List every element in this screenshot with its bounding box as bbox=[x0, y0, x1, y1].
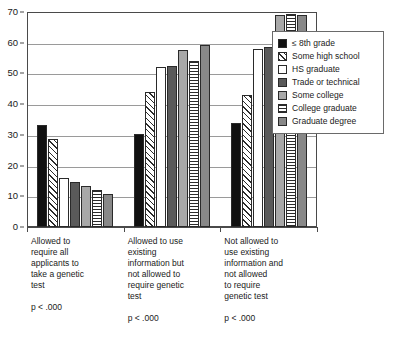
x-category-line: test bbox=[31, 280, 115, 291]
bar bbox=[81, 186, 91, 227]
legend-swatch-icon bbox=[278, 52, 287, 61]
y-tick-mark bbox=[20, 12, 24, 13]
legend-item[interactable]: Some college bbox=[278, 89, 378, 102]
x-category-line: use existing bbox=[224, 247, 308, 258]
x-category-line: genetic test bbox=[224, 291, 308, 302]
p-value-annotation: p < .000 bbox=[31, 302, 115, 313]
x-axis-labels: Allowed torequire allapplicants totake a… bbox=[27, 236, 327, 336]
bar bbox=[48, 139, 58, 227]
legend-item-label: Some high school bbox=[292, 52, 360, 61]
legend-item-label: ≤ 8th grade bbox=[292, 39, 335, 48]
x-category-line: Not allowed to bbox=[224, 236, 308, 247]
grouped-bar-chart: 010203040506070 Allowed torequire allapp… bbox=[0, 0, 393, 339]
y-tick-mark bbox=[20, 134, 24, 135]
legend-item-label: College graduate bbox=[292, 104, 357, 113]
x-tick-mark bbox=[27, 227, 28, 232]
y-tick-mark bbox=[20, 73, 24, 74]
bar bbox=[156, 67, 166, 227]
y-tick-label: 40 bbox=[7, 99, 18, 109]
bar bbox=[189, 61, 199, 227]
bar-group bbox=[124, 12, 221, 227]
x-tick-mark bbox=[220, 227, 221, 232]
legend-item-label: Graduate degree bbox=[292, 117, 356, 126]
y-tick-mark bbox=[20, 227, 24, 228]
x-tick-mark bbox=[124, 227, 125, 232]
y-tick-label: 10 bbox=[7, 192, 18, 202]
bar-group bbox=[27, 12, 124, 227]
legend-item-label: Some college bbox=[292, 91, 344, 100]
y-axis: 010203040506070 bbox=[0, 12, 24, 227]
x-category-line: information and bbox=[224, 258, 308, 269]
x-category-line: Allowed to use bbox=[128, 236, 212, 247]
x-category-label: Allowed torequire allapplicants totake a… bbox=[31, 236, 115, 313]
legend-swatch-icon bbox=[278, 104, 287, 113]
y-tick-mark bbox=[20, 42, 24, 43]
legend-item[interactable]: ≤ 8th grade bbox=[278, 37, 378, 50]
legend-item-label: Trade or technical bbox=[292, 78, 360, 87]
x-category-line: test bbox=[128, 291, 212, 302]
legend-item[interactable]: College graduate bbox=[278, 102, 378, 115]
x-tick-mark bbox=[317, 227, 318, 232]
bar bbox=[231, 123, 241, 227]
x-category-label: Not allowed touse existinginformation an… bbox=[224, 236, 308, 324]
bar bbox=[134, 134, 144, 227]
legend-swatch-icon bbox=[278, 91, 287, 100]
legend-item-label: HS graduate bbox=[292, 65, 340, 74]
x-category-line: applicants to bbox=[31, 258, 115, 269]
y-tick-mark bbox=[20, 104, 24, 105]
legend-item[interactable]: HS graduate bbox=[278, 63, 378, 76]
bar bbox=[178, 50, 188, 227]
legend-item[interactable]: Trade or technical bbox=[278, 76, 378, 89]
bar bbox=[92, 190, 102, 227]
bar bbox=[145, 92, 155, 227]
bar bbox=[253, 49, 263, 227]
p-value-annotation: p < .000 bbox=[128, 313, 212, 324]
legend-item[interactable]: Graduate degree bbox=[278, 115, 378, 128]
y-tick-mark bbox=[20, 165, 24, 166]
x-category-line: Allowed to bbox=[31, 236, 115, 247]
legend-swatch-icon bbox=[278, 78, 287, 87]
p-value-annotation: p < .000 bbox=[224, 313, 308, 324]
bar bbox=[242, 95, 252, 227]
x-category-line: not allowed to bbox=[128, 269, 212, 280]
x-category-label: Allowed to useexistinginformation butnot… bbox=[128, 236, 212, 324]
x-category-line: not allowed bbox=[224, 269, 308, 280]
x-category-line: existing bbox=[128, 247, 212, 258]
legend-item[interactable]: Some high school bbox=[278, 50, 378, 63]
bar bbox=[70, 182, 80, 227]
y-tick-label: 60 bbox=[7, 38, 18, 48]
x-category-line: take a genetic bbox=[31, 269, 115, 280]
y-tick-label: 50 bbox=[7, 69, 18, 79]
bar bbox=[103, 194, 113, 227]
legend-swatch-icon bbox=[278, 39, 287, 48]
y-tick-label: 20 bbox=[7, 161, 18, 171]
legend-swatch-icon bbox=[278, 117, 287, 126]
x-category-line: information but bbox=[128, 258, 212, 269]
x-category-line: require genetic bbox=[128, 280, 212, 291]
bar bbox=[37, 125, 47, 227]
bar bbox=[167, 66, 177, 227]
bar bbox=[59, 178, 69, 227]
legend-swatch-icon bbox=[278, 65, 287, 74]
x-axis-line bbox=[27, 227, 317, 228]
y-tick-label: 30 bbox=[7, 130, 18, 140]
x-category-line: require all bbox=[31, 247, 115, 258]
bar bbox=[200, 45, 210, 227]
x-category-line: to require bbox=[224, 280, 308, 291]
chart-legend: ≤ 8th gradeSome high schoolHS graduateTr… bbox=[272, 31, 384, 134]
y-tick-mark bbox=[20, 196, 24, 197]
y-tick-label: 0 bbox=[13, 222, 18, 232]
y-tick-label: 70 bbox=[7, 7, 18, 17]
